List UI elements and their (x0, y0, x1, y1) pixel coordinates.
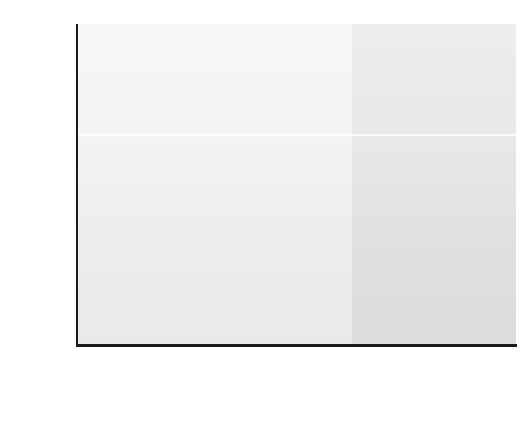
scan-highlight (76, 134, 516, 136)
bar-chart (0, 0, 527, 439)
x-axis-line (76, 344, 517, 347)
trace-minerals-panel (352, 24, 516, 345)
y-axis-line (76, 24, 78, 345)
plot-area (76, 24, 516, 345)
